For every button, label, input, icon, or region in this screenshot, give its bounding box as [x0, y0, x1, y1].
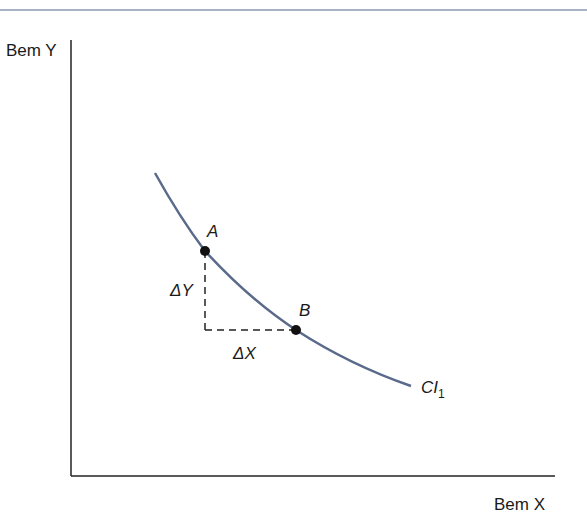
y-axis-label: Bem Y	[6, 41, 57, 60]
curve-label: CI1	[421, 378, 445, 401]
point-a-label: A	[206, 222, 218, 241]
delta-x-label: ΔX	[232, 344, 256, 363]
curve-label-subscript: 1	[438, 387, 445, 401]
delta-y-label: ΔY	[169, 281, 194, 300]
point-b-marker	[291, 325, 301, 335]
x-axis-label: Bem X	[494, 495, 545, 514]
indifference-curve	[155, 173, 411, 386]
point-a-marker	[200, 246, 210, 256]
curve-label-main: CI	[421, 378, 438, 397]
point-b-label: B	[299, 301, 310, 320]
indifference-curve-diagram: Bem Y Bem X A B ΔY ΔX CI1	[0, 0, 587, 532]
